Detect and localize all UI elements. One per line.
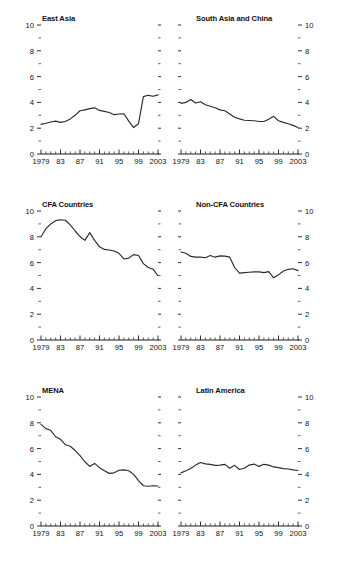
y-axis-label: 10	[26, 393, 34, 402]
x-axis-label: 99	[274, 529, 282, 538]
data-series-line	[41, 220, 158, 276]
chart-panel-south-asia-and-china: South Asia and China 0246810197983879195…	[169, 0, 337, 188]
x-axis-label: 99	[274, 343, 282, 352]
y-axis-label: 6	[305, 73, 309, 82]
x-axis-label: 99	[134, 343, 142, 352]
x-axis-label: 1979	[173, 157, 190, 166]
x-axis-label: 83	[196, 529, 204, 538]
y-axis-label: 2	[30, 310, 34, 319]
plot-svg: 0246810197983879195992003	[169, 372, 337, 562]
x-axis-label: 99	[274, 157, 282, 166]
chart-panel-cfa-countries: CFA Countries 0246810197983879195992003	[0, 186, 168, 374]
x-axis-label: 2003	[290, 157, 307, 166]
y-axis-label: 10	[26, 21, 34, 30]
y-axis-label: 10	[305, 393, 313, 402]
y-axis-label: 4	[30, 470, 34, 479]
x-axis-label: 2003	[290, 343, 307, 352]
x-axis-label: 2003	[290, 529, 307, 538]
chart-panel-east-asia: East Asia 0246810197983879195992003	[0, 0, 168, 188]
y-axis-label: 8	[305, 419, 309, 428]
data-series-line	[181, 100, 298, 128]
plot-area: 0246810197983879195992003	[169, 186, 337, 376]
chart-panel-mena: MENA 0246810197983879195992003	[0, 372, 168, 560]
y-axis-label: 6	[30, 73, 34, 82]
x-axis-label: 87	[216, 529, 224, 538]
x-axis-label: 87	[76, 529, 84, 538]
x-axis-label: 99	[134, 529, 142, 538]
x-axis-label: 83	[56, 157, 64, 166]
y-axis-label: 6	[30, 259, 34, 268]
data-series-line	[181, 252, 298, 278]
chart-panel-latin-america: Latin America 0246810197983879195992003	[169, 372, 337, 560]
x-axis-label: 1979	[33, 157, 50, 166]
y-axis-label: 4	[305, 470, 309, 479]
x-axis-label: 1979	[33, 343, 50, 352]
y-axis-label: 2	[30, 124, 34, 133]
x-axis-label: 87	[216, 157, 224, 166]
y-axis-label: 2	[30, 496, 34, 505]
plot-svg: 0246810197983879195992003	[0, 372, 168, 562]
y-axis-label: 4	[305, 284, 309, 293]
y-axis-label: 4	[305, 98, 309, 107]
y-axis-label: 6	[305, 445, 309, 454]
plot-area: 0246810197983879195992003	[0, 0, 168, 190]
data-series-line	[181, 463, 298, 473]
y-axis-label: 4	[30, 284, 34, 293]
x-axis-label: 95	[255, 157, 263, 166]
plot-svg: 0246810197983879195992003	[0, 0, 168, 190]
x-axis-label: 99	[134, 157, 142, 166]
x-axis-label: 91	[235, 529, 243, 538]
x-axis-label: 2003	[150, 343, 167, 352]
x-axis-label: 95	[255, 343, 263, 352]
x-axis-label: 1979	[173, 529, 190, 538]
x-axis-label: 1979	[173, 343, 190, 352]
y-axis-label: 4	[30, 98, 34, 107]
plot-area: 0246810197983879195992003	[0, 186, 168, 376]
x-axis-label: 2003	[150, 529, 167, 538]
y-axis-label: 8	[30, 233, 34, 242]
x-axis-label: 83	[56, 343, 64, 352]
x-axis-label: 1979	[33, 529, 50, 538]
x-axis-label: 91	[235, 157, 243, 166]
x-axis-label: 95	[255, 529, 263, 538]
x-axis-label: 2003	[150, 157, 167, 166]
y-axis-label: 2	[305, 124, 309, 133]
plot-svg: 0246810197983879195992003	[0, 186, 168, 376]
x-axis-label: 87	[76, 157, 84, 166]
plot-area: 0246810197983879195992003	[169, 372, 337, 562]
y-axis-label: 8	[30, 47, 34, 56]
x-axis-label: 91	[95, 157, 103, 166]
x-axis-label: 83	[196, 343, 204, 352]
y-axis-label: 10	[26, 207, 34, 216]
x-axis-label: 91	[95, 529, 103, 538]
y-axis-label: 2	[305, 496, 309, 505]
y-axis-label: 10	[305, 207, 313, 216]
y-axis-label: 8	[30, 419, 34, 428]
y-axis-label: 8	[305, 233, 309, 242]
y-axis-label: 6	[30, 445, 34, 454]
plot-svg: 0246810197983879195992003	[169, 0, 337, 190]
x-axis-label: 87	[216, 343, 224, 352]
data-series-line	[41, 424, 158, 486]
figure-panel-grid: East Asia 0246810197983879195992003 Sout…	[0, 0, 337, 564]
x-axis-label: 95	[115, 343, 123, 352]
x-axis-label: 83	[196, 157, 204, 166]
plot-area: 0246810197983879195992003	[0, 372, 168, 562]
plot-svg: 0246810197983879195992003	[169, 186, 337, 376]
x-axis-label: 95	[115, 157, 123, 166]
y-axis-label: 2	[305, 310, 309, 319]
y-axis-label: 10	[305, 21, 313, 30]
x-axis-label: 91	[235, 343, 243, 352]
plot-area: 0246810197983879195992003	[169, 0, 337, 190]
x-axis-label: 87	[76, 343, 84, 352]
x-axis-label: 83	[56, 529, 64, 538]
y-axis-label: 6	[305, 259, 309, 268]
x-axis-label: 95	[115, 529, 123, 538]
chart-panel-non-cfa-countries: Non-CFA Countries 0246810197983879195992…	[169, 186, 337, 374]
data-series-line	[41, 95, 158, 128]
y-axis-label: 8	[305, 47, 309, 56]
x-axis-label: 91	[95, 343, 103, 352]
